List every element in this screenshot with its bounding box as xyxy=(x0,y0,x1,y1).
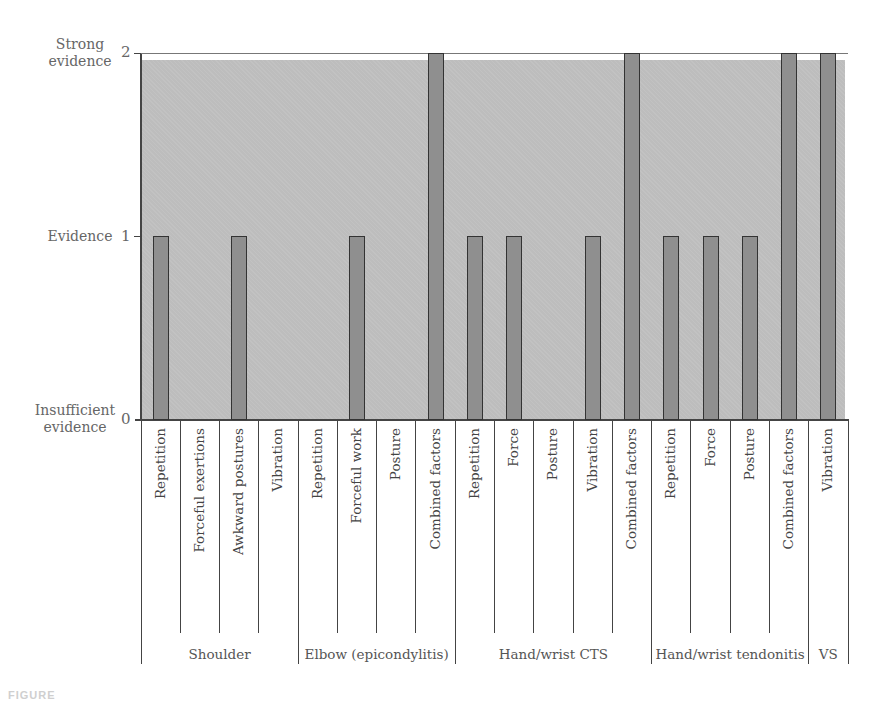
bar xyxy=(231,236,247,420)
category-separator xyxy=(690,419,691,633)
category-separator xyxy=(376,419,377,633)
group-separator xyxy=(455,419,456,664)
bar xyxy=(742,236,758,420)
category-separator xyxy=(769,419,770,633)
bar xyxy=(781,53,797,420)
group-separator xyxy=(141,419,142,664)
category-separator xyxy=(533,419,534,633)
category-label: Posture xyxy=(387,428,403,480)
category-separator xyxy=(415,419,416,633)
category-separator xyxy=(258,419,259,633)
category-label: Force xyxy=(505,428,521,467)
figure-caption: FIGURE xyxy=(8,689,56,701)
category-label: Vibration xyxy=(269,428,285,492)
category-label: Forceful exertions xyxy=(191,428,207,553)
y-tick-mark-2 xyxy=(134,53,141,54)
y-tick-2: 2 xyxy=(121,43,131,61)
y-tick-mark-1 xyxy=(134,236,141,237)
category-separator xyxy=(573,419,574,633)
category-separator xyxy=(730,419,731,633)
y-label-strong-evidence: Strong evidence xyxy=(40,36,120,70)
top-reference-line xyxy=(135,53,848,54)
category-label: Repetition xyxy=(309,428,325,499)
bar xyxy=(820,53,836,420)
category-label: Repetition xyxy=(662,428,678,499)
bar xyxy=(585,236,601,420)
category-label: Force xyxy=(702,428,718,467)
category-separator xyxy=(219,419,220,633)
group-label: Hand/wrist tendonitis xyxy=(652,646,809,662)
group-label: Elbow (epicondylitis) xyxy=(298,646,455,662)
y-label-insufficient-evidence: Insufficient evidence xyxy=(30,402,120,436)
bar xyxy=(624,53,640,420)
bar xyxy=(349,236,365,420)
bar xyxy=(506,236,522,420)
category-label: Combined factors xyxy=(780,428,796,549)
bar xyxy=(703,236,719,420)
category-label: Posture xyxy=(544,428,560,480)
category-separator xyxy=(337,419,338,633)
category-separator xyxy=(612,419,613,633)
category-label: Posture xyxy=(741,428,757,480)
bar xyxy=(663,236,679,420)
y-tick-0: 0 xyxy=(121,410,131,428)
category-label: Repetition xyxy=(466,428,482,499)
category-label: Vibration xyxy=(584,428,600,492)
group-separator xyxy=(651,419,652,664)
category-separator xyxy=(494,419,495,633)
bar xyxy=(428,53,444,420)
category-separator xyxy=(180,419,181,633)
group-separator xyxy=(298,419,299,664)
group-separator xyxy=(848,419,849,664)
category-label: Repetition xyxy=(152,428,168,499)
group-label: Hand/wrist CTS xyxy=(455,646,651,662)
y-tick-1: 1 xyxy=(121,227,131,245)
category-label: Combined factors xyxy=(623,428,639,549)
category-label: Combined factors xyxy=(427,428,443,549)
bar xyxy=(153,236,169,420)
bar xyxy=(467,236,483,420)
y-label-evidence: Evidence xyxy=(40,228,120,245)
category-label: Awkward postures xyxy=(230,428,246,555)
category-label: Vibration xyxy=(819,428,835,492)
group-label: VS xyxy=(809,646,848,662)
category-label: Forceful work xyxy=(348,428,364,523)
group-label: Shoulder xyxy=(141,646,298,662)
group-separator xyxy=(808,419,809,664)
